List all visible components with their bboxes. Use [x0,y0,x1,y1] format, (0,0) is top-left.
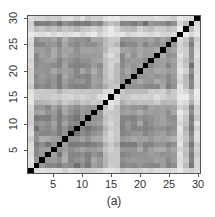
y-tick [24,44,27,45]
y-tick-label: 10 [7,118,19,130]
x-tick [53,174,54,177]
x-tick-label: 20 [134,178,146,190]
y-tick [24,71,27,72]
x-tick-label: 30 [192,178,204,190]
y-tick [24,18,27,19]
x-tick [82,174,83,177]
y-tick [24,150,27,151]
x-tick-label: 5 [50,178,56,190]
x-tick [198,174,199,177]
heatmap-grid [28,16,200,173]
y-tick-label: 20 [7,65,19,77]
x-tick-label: 10 [76,178,88,190]
y-tick-label: 25 [7,38,19,50]
heatmap-plot-area [27,15,201,174]
y-tick-label: 5 [7,147,19,153]
x-tick [140,174,141,177]
y-tick [24,97,27,98]
figure-caption: (a) [107,194,122,208]
y-tick-label: 15 [7,91,19,103]
x-tick-label: 25 [163,178,175,190]
x-tick [111,174,112,177]
y-tick-label: 30 [7,12,19,24]
x-tick [169,174,170,177]
x-tick-label: 15 [105,178,117,190]
y-tick [24,124,27,125]
heatmap-cell [194,168,200,173]
